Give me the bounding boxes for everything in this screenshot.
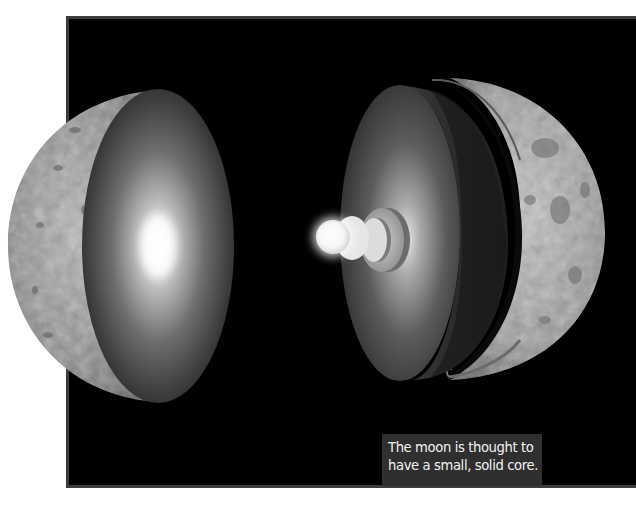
caption-box: The moon is thought to have a small, sol… bbox=[382, 434, 542, 486]
caption-line-1: The moon is thought to bbox=[388, 439, 542, 457]
caption-line-2: have a small, solid core. bbox=[388, 457, 542, 475]
inner-core bbox=[313, 216, 369, 260]
left-hemisphere bbox=[8, 89, 234, 403]
